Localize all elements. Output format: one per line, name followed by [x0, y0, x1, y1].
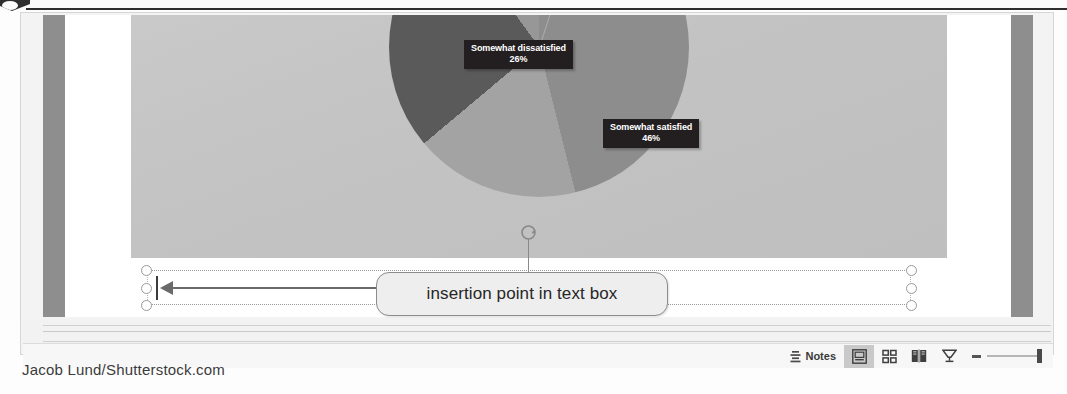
- resize-handle-top-right[interactable]: [906, 265, 917, 276]
- pie-label-satisfied-percent: 46%: [610, 133, 692, 144]
- annotation-arrow-head: [160, 281, 173, 295]
- resize-handle-bottom-left[interactable]: [141, 300, 152, 311]
- ribbon-divider: [26, 8, 1067, 10]
- view-button-slide-show[interactable]: [934, 345, 964, 368]
- resize-handle-top-left[interactable]: [141, 265, 152, 276]
- resize-handle-middle-right[interactable]: [906, 283, 917, 294]
- ribbon-corner-inner: [2, 1, 18, 10]
- divider-line-c: [43, 341, 1051, 342]
- normal-view-icon: [852, 349, 867, 364]
- view-button-slide-sorter[interactable]: [874, 345, 904, 368]
- zoom-slider-track[interactable]: [987, 355, 1039, 357]
- zoom-out-button[interactable]: [970, 350, 983, 363]
- notes-button[interactable]: Notes: [782, 345, 844, 368]
- photo-credit-text: Jacob Lund/Shutterstock.com: [22, 361, 225, 378]
- view-button-reading-view[interactable]: [904, 345, 934, 368]
- zoom-control[interactable]: [964, 350, 1053, 363]
- slide-show-icon: [942, 349, 957, 363]
- annotation-arrow-line: [169, 287, 384, 289]
- resize-handle-middle-left[interactable]: [141, 283, 152, 294]
- divider-line-a: [43, 325, 1051, 326]
- pie-label-satisfied-name: Somewhat satisfied: [610, 122, 692, 132]
- notes-icon: [790, 350, 801, 363]
- divider-line-b: [43, 331, 1051, 332]
- page-root: Somewhat dissatisfied 26% Somewhat satis…: [0, 0, 1067, 394]
- pie-label-dissatisfied-name: Somewhat dissatisfied: [471, 43, 566, 53]
- resize-handle-bottom-right[interactable]: [906, 300, 917, 311]
- notes-button-label: Notes: [805, 350, 836, 362]
- application-window: Somewhat dissatisfied 26% Somewhat satis…: [20, 12, 1054, 355]
- annotation-callout: insertion point in text box: [376, 272, 668, 316]
- slide-sorter-icon: [882, 349, 897, 364]
- pie-label-satisfied[interactable]: Somewhat satisfied 46%: [603, 119, 699, 148]
- reading-view-icon: [911, 349, 927, 363]
- ribbon-edge: [0, 0, 1067, 10]
- pie-label-dissatisfied-percent: 26%: [471, 54, 566, 65]
- insertion-point-caret: [156, 276, 158, 300]
- zoom-slider-thumb[interactable]: [1037, 349, 1042, 363]
- photo-credit-caption: Jacob Lund/Shutterstock.com: [22, 361, 225, 378]
- slide-content-area[interactable]: Somewhat dissatisfied 26% Somewhat satis…: [131, 15, 947, 258]
- annotation-callout-label: insertion point in text box: [427, 284, 618, 304]
- pie-label-dissatisfied[interactable]: Somewhat dissatisfied 26%: [464, 40, 573, 69]
- view-button-normal[interactable]: [844, 345, 874, 368]
